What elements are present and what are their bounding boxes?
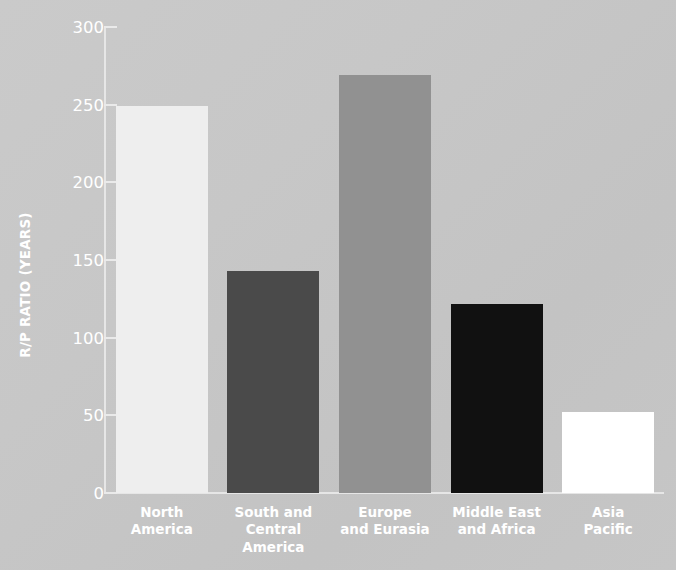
y-axis-tick-label: 100	[18, 328, 104, 347]
x-axis-category-label: North America	[106, 504, 218, 539]
y-axis-tick-label: 0	[18, 484, 104, 503]
bar[interactable]	[116, 106, 208, 493]
plot-area	[106, 27, 664, 493]
x-axis-category-label: Europe and Eurasia	[329, 504, 441, 539]
x-axis-category-label: South and Central America	[218, 504, 330, 556]
y-axis-tick-label: 300	[18, 18, 104, 37]
bar[interactable]	[451, 304, 543, 494]
bar[interactable]	[227, 271, 319, 493]
bar[interactable]	[339, 75, 431, 493]
bar-chart: R/P RATIO (YEARS) 300250200150100500 Nor…	[0, 0, 676, 570]
y-axis-tick-label: 250	[18, 95, 104, 114]
x-axis-category-label: Middle East and Africa	[441, 504, 553, 539]
y-axis-tick-label: 50	[18, 406, 104, 425]
y-axis-tick-label: 150	[18, 251, 104, 270]
bar[interactable]	[562, 412, 654, 493]
x-axis-category-label: Asia Pacific	[552, 504, 664, 539]
y-axis-tick-label: 200	[18, 173, 104, 192]
